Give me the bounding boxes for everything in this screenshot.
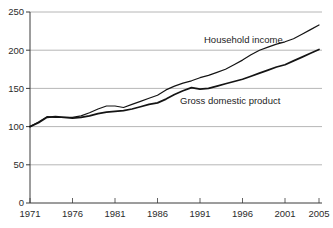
x-tick-label: 1986	[147, 208, 168, 219]
chart-canvas: 0501001502002501971197619811986199119962…	[0, 0, 333, 228]
y-tick-label: 250	[8, 6, 24, 17]
x-tick-label: 1996	[232, 208, 253, 219]
series-label-gross-domestic-product: Gross domestic product	[180, 95, 280, 106]
x-tick-label: 2005	[308, 208, 329, 219]
line-chart: 0501001502002501971197619811986199119962…	[0, 0, 333, 228]
series-label-household-income: Household income	[204, 34, 283, 45]
x-tick-label: 1976	[62, 208, 83, 219]
x-tick-label: 1991	[189, 208, 210, 219]
y-tick-label: 150	[8, 83, 24, 94]
y-tick-label: 100	[8, 121, 24, 132]
y-tick-label: 50	[13, 159, 24, 170]
x-tick-label: 1981	[104, 208, 125, 219]
y-tick-label: 0	[19, 197, 24, 208]
x-tick-label: 2001	[274, 208, 295, 219]
x-tick-label: 1971	[19, 208, 40, 219]
y-tick-label: 200	[8, 45, 24, 56]
